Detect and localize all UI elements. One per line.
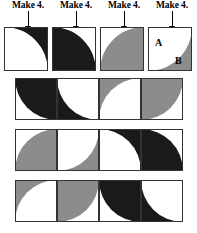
make-4-label-3: Make 4.: [100, 0, 148, 11]
strip-2-cell-4[interactable]: [141, 129, 183, 171]
make-4-label-4: Make 4.: [148, 0, 196, 11]
quarter-circle-arc: [148, 27, 192, 71]
prototype-tile-3[interactable]: [100, 27, 144, 71]
assembled-strip-3: [15, 180, 183, 222]
strip-1-cell-4[interactable]: [141, 78, 183, 120]
make-4-label-2: Make 4.: [52, 0, 100, 11]
quarter-circle-arc: [15, 129, 57, 171]
prototype-tile-2[interactable]: [52, 27, 96, 71]
quarter-circle-arc: [141, 78, 183, 120]
quarter-circle-arc: [99, 180, 141, 222]
down-arrow-icon-3: [124, 11, 125, 28]
quarter-circle-arc: [57, 78, 99, 120]
quarter-circle-arc: [99, 78, 141, 120]
assembled-strip-1: [15, 78, 183, 120]
prototype-slot-2: Make 4.: [52, 0, 100, 72]
quarter-circle-arc: [100, 27, 144, 71]
down-arrow-icon-4: [172, 11, 173, 28]
strip-3-cell-1[interactable]: [15, 180, 57, 222]
strip-2-cell-3[interactable]: [99, 129, 141, 171]
down-arrow-icon-1: [28, 11, 29, 28]
strip-2-cell-2[interactable]: [57, 129, 99, 171]
quarter-circle-arc: [15, 180, 57, 222]
prototype-slot-4: Make 4. A B: [148, 0, 196, 72]
quarter-circle-arc: [15, 78, 57, 120]
quarter-circle-arc: [141, 129, 183, 171]
quarter-circle-arc: [141, 180, 183, 222]
quarter-circle-arc: [52, 27, 96, 71]
strip-2-cell-1[interactable]: [15, 129, 57, 171]
strip-3-cell-4[interactable]: [141, 180, 183, 222]
assembled-strip-2: [15, 129, 183, 171]
strip-1-cell-2[interactable]: [57, 78, 99, 120]
region-label-a: A: [155, 38, 162, 48]
make-4-label-1: Make 4.: [4, 0, 52, 11]
prototype-slot-3: Make 4.: [100, 0, 148, 72]
prototype-tiles-row: Make 4. Make 4. Make 4. Make 4. A B: [0, 0, 197, 72]
quarter-circle-arc: [57, 129, 99, 171]
region-label-b: B: [175, 56, 182, 66]
strip-3-cell-2[interactable]: [57, 180, 99, 222]
quarter-circle-arc: [4, 27, 48, 71]
quarter-circle-arc: [99, 129, 141, 171]
quarter-circle-arc: [57, 180, 99, 222]
down-arrow-icon-2: [76, 11, 77, 28]
prototype-tile-1[interactable]: [4, 27, 48, 71]
strip-1-cell-1[interactable]: [15, 78, 57, 120]
strip-3-cell-3[interactable]: [99, 180, 141, 222]
prototype-slot-1: Make 4.: [4, 0, 52, 72]
prototype-tile-4[interactable]: A B: [148, 27, 192, 71]
strip-1-cell-3[interactable]: [99, 78, 141, 120]
